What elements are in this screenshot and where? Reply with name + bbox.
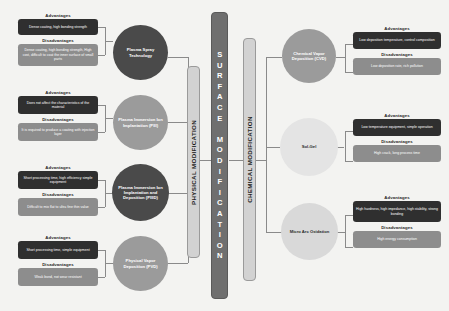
advantages-box: Low deposition temperature, control comp… — [353, 32, 441, 49]
branch-bar-chemical-modification[interactable]: CHEMICAL MODIFICATION — [243, 38, 256, 281]
diagram-canvas: Advantages Dense coating, high bonding s… — [0, 0, 449, 311]
connector — [168, 263, 188, 264]
center-bar-surface-modification[interactable]: SURFACE MODIFICATION — [211, 12, 228, 299]
connector — [168, 193, 188, 194]
advantages-box: Dense coating, high bonding strength — [18, 19, 98, 35]
connector — [345, 44, 353, 45]
disadvantages-box: Difficult to mix flat to ultra fine thin… — [18, 198, 98, 216]
advantages-box: Low temperature equipment, simple operat… — [353, 119, 441, 136]
advantages-box: Short processing time, simple equipment — [18, 241, 98, 259]
connector — [266, 232, 282, 233]
connector — [345, 215, 346, 247]
center-bar-label: SURFACE MODIFICATION — [216, 50, 224, 262]
disadvantages-box: Dense coating, high bonding strength, Hi… — [18, 44, 98, 66]
method-circle-sol-gel[interactable]: Sol-Gel — [280, 118, 338, 176]
disadvantages-box: High energy consumption — [353, 231, 441, 248]
disadvantages-box: Weak bond, not wear resistant — [18, 268, 98, 286]
method-circle-piii[interactable]: Plasma Immersion Ion Implantation (PIII) — [113, 95, 168, 150]
connector — [266, 57, 267, 232]
advantages-box: Short processing time, high efficiency s… — [18, 171, 98, 189]
connector — [105, 118, 113, 119]
connector — [168, 57, 188, 58]
connector — [256, 160, 267, 161]
advantages-box: Does not affect the characteristics of t… — [18, 96, 98, 114]
connector — [345, 72, 353, 73]
connector — [345, 247, 353, 248]
connector — [199, 160, 211, 161]
method-circle-cvd[interactable]: Chemical Vapor Deposition (CVD) — [282, 29, 336, 83]
connector — [105, 41, 113, 42]
branch-bar-physical-modification[interactable]: PHYSICAL MODIFICATION — [187, 66, 200, 258]
branch-bar-chemical-label: CHEMICAL MODIFICATION — [246, 116, 253, 203]
connector — [266, 147, 280, 148]
connector — [345, 131, 353, 132]
connector — [345, 215, 353, 216]
branch-bar-physical-label: PHYSICAL MODIFICATION — [190, 119, 197, 204]
disadvantages-box: It is required to produce a coating with… — [18, 123, 98, 141]
connector — [345, 161, 353, 162]
advantages-box: High hardness, high impedance, high stab… — [353, 201, 441, 222]
connector — [229, 160, 243, 161]
connector — [345, 44, 346, 72]
method-circle-plasma-spray-technology[interactable]: Plasma Spray Technology — [113, 25, 168, 80]
disadvantages-box: Low deposition rate, rich pollution — [353, 58, 441, 75]
connector — [105, 263, 113, 264]
method-circle-piiid[interactable]: Plasma Immersion Ion Implantation and De… — [112, 164, 169, 221]
method-circle-micro-arc-oxidation[interactable]: Micro Arc Oxidation — [281, 203, 338, 260]
disadvantages-box: High crack, long process time — [353, 145, 441, 162]
connector — [345, 131, 346, 161]
connector — [266, 57, 282, 58]
method-circle-pvd[interactable]: Physical Vapor Deposition (PVD) — [113, 236, 168, 291]
connector — [168, 122, 188, 123]
